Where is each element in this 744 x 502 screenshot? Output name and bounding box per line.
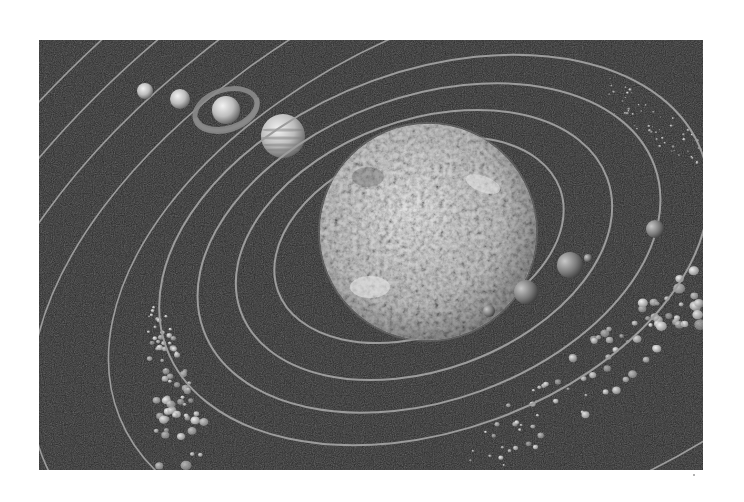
- asteroid: [472, 450, 474, 452]
- sun-body: [320, 124, 536, 340]
- sun-flare: [350, 276, 390, 298]
- asteroid: [648, 323, 652, 327]
- asteroid: [659, 111, 660, 112]
- sun: [318, 122, 538, 342]
- asteroid: [627, 108, 630, 111]
- asteroid: [168, 380, 172, 383]
- asteroid: [687, 151, 689, 152]
- neptune-body: [137, 83, 153, 99]
- asteroid: [501, 446, 504, 449]
- asteroid: [513, 446, 518, 451]
- asteroid: [566, 387, 569, 390]
- asteroid: [627, 110, 629, 112]
- asteroid: [503, 464, 505, 466]
- asteroid: [659, 129, 660, 130]
- mars-body: [646, 220, 664, 238]
- asteroid: [185, 416, 191, 421]
- asteroid: [631, 92, 632, 93]
- asteroid: [191, 416, 200, 424]
- asteroid: [153, 325, 156, 328]
- asteroid: [604, 365, 611, 371]
- asteroid: [168, 342, 172, 345]
- asteroid: [188, 398, 193, 403]
- asteroid: [190, 452, 195, 456]
- asteroid: [606, 337, 613, 343]
- asteroid: [488, 454, 491, 457]
- asteroid: [147, 330, 150, 333]
- asteroid: [653, 345, 662, 353]
- asteroid: [650, 131, 652, 133]
- asteroid: [532, 389, 535, 392]
- asteroid: [172, 412, 178, 417]
- planet-earth: [557, 252, 583, 278]
- asteroid: [153, 336, 157, 340]
- asteroid: [671, 150, 673, 151]
- asteroid: [506, 403, 511, 407]
- asteroid: [664, 142, 666, 144]
- asteroid: [640, 110, 642, 112]
- asteroid: [150, 341, 155, 345]
- asteroid: [164, 368, 167, 371]
- asteroid: [673, 150, 674, 151]
- asteroid: [169, 328, 172, 331]
- asteroid: [555, 379, 561, 384]
- asteroid: [181, 396, 185, 399]
- asteroid: [518, 428, 521, 431]
- asteroid: [679, 302, 684, 306]
- asteroid: [648, 129, 651, 131]
- asteroid: [609, 78, 610, 79]
- asteroid: [643, 357, 650, 363]
- image-caption: Solar system illustration (grayscale): S…: [0, 0, 1, 1]
- asteroid: [672, 145, 675, 147]
- jupiter-band: [262, 128, 304, 131]
- solar-system-illustration: [39, 40, 703, 470]
- asteroid: [652, 111, 655, 113]
- asteroid: [494, 422, 499, 426]
- solar-system-scene: [39, 40, 703, 470]
- asteroid: [603, 389, 609, 394]
- asteroid: [530, 424, 535, 428]
- asteroid: [199, 418, 208, 426]
- asteroid: [537, 386, 541, 390]
- asteroid: [656, 321, 667, 331]
- asteroid: [520, 424, 523, 427]
- asteroid: [537, 433, 543, 439]
- planet-mars: [646, 220, 664, 238]
- asteroid: [647, 125, 650, 127]
- asteroid: [171, 336, 176, 341]
- asteroid: [612, 91, 615, 93]
- asteroid: [608, 93, 610, 95]
- asteroid: [692, 310, 703, 319]
- asteroid: [174, 382, 180, 387]
- asteroid: [484, 431, 487, 433]
- asteroid: [491, 434, 496, 438]
- asteroid: [628, 370, 637, 378]
- asteroid: [638, 104, 640, 105]
- asteroid: [690, 292, 698, 299]
- earth-body: [557, 252, 583, 278]
- asteroid: [150, 314, 153, 317]
- asteroid: [183, 369, 188, 373]
- asteroid: [536, 414, 539, 417]
- asteroid: [629, 88, 632, 91]
- asteroid: [624, 86, 626, 88]
- asteroid: [155, 347, 159, 351]
- asteroid: [584, 394, 587, 397]
- asteroid: [622, 100, 624, 102]
- asteroid: [610, 85, 612, 87]
- asteroid: [514, 420, 519, 424]
- asteroid: [619, 334, 624, 338]
- asteroid: [661, 137, 663, 139]
- asteroid: [632, 321, 638, 326]
- asteroid: [675, 321, 684, 328]
- asteroid: [526, 441, 531, 446]
- asteroid: [596, 335, 601, 339]
- asteroid: [655, 138, 658, 140]
- asteroid: [498, 456, 503, 460]
- uranus-body: [170, 89, 190, 109]
- asteroid: [626, 112, 629, 114]
- asteroid: [672, 117, 674, 119]
- asteroid: [650, 299, 658, 306]
- planet-uranus: [170, 89, 190, 109]
- asteroid: [606, 327, 612, 332]
